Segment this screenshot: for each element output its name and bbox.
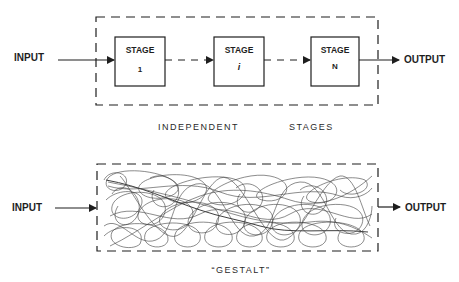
diagram-canvas: INPUT STAGE 1 STAGE i STAGE N OUTPUT IND… (0, 0, 459, 282)
caption-gestalt: “GESTALT” (211, 265, 270, 275)
gestalt-input-label: INPUT (12, 202, 42, 213)
stage-i-box: STAGE i (214, 37, 264, 86)
caption-stages: STAGES (289, 122, 334, 132)
stage-n-box: STAGE N (311, 37, 359, 86)
output-label: OUTPUT (404, 54, 445, 65)
stage-1-box: STAGE 1 (115, 37, 165, 86)
stage-n-title: STAGE (321, 45, 350, 55)
caption-independent: INDEPENDENT (158, 122, 239, 132)
gestalt-diagram: INPUT OUTPUT “GESTALT” (12, 164, 446, 275)
gestalt-output-label: OUTPUT (405, 202, 446, 213)
stage-i-title: STAGE (225, 45, 254, 55)
independent-stages-diagram: INPUT STAGE 1 STAGE i STAGE N OUTPUT IND… (14, 17, 445, 132)
tangled-scribble (104, 171, 372, 248)
stage-1-index: 1 (138, 65, 143, 74)
input-label: INPUT (14, 52, 44, 63)
stage-1-title: STAGE (126, 45, 155, 55)
stage-n-index: N (332, 62, 338, 71)
